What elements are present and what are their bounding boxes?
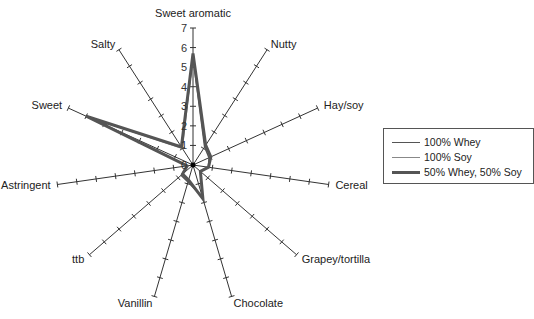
axis-line: [193, 165, 329, 184]
axis-label: Salty: [91, 38, 116, 50]
legend-label: 100% Soy: [424, 151, 472, 163]
axis-tick: [309, 179, 310, 185]
legend: 100% Whey 100% Soy 50% Whey, 50% Soy: [383, 128, 534, 184]
axis-tick: [254, 65, 259, 68]
axis-tick: [265, 48, 270, 51]
axis-tick: [328, 182, 329, 188]
axis-tick: [148, 98, 153, 101]
center-point: [191, 163, 196, 168]
axis-line: [57, 165, 193, 184]
radial-tick-label: 3: [181, 100, 187, 112]
axis-line: [193, 165, 297, 255]
axis-tick: [154, 168, 155, 174]
legend-label: 100% Whey: [424, 136, 481, 148]
axis-label: Chocolate: [234, 297, 284, 309]
axis-tick: [231, 168, 232, 174]
axis-label: Nutty: [271, 38, 297, 50]
axis-label: Vanillin: [118, 297, 153, 309]
axis-tick: [251, 170, 252, 176]
axis-label: Sweet: [32, 99, 63, 111]
legend-item-soy: 100% Soy: [392, 150, 472, 164]
legend-swatch-blend: [392, 171, 420, 174]
axis-tick: [212, 165, 213, 171]
axis-line: [89, 165, 193, 255]
axis-tick: [57, 182, 58, 188]
radial-tick-label: 5: [181, 61, 187, 73]
axis-tick: [96, 176, 97, 182]
axis-label: Hay/soy: [324, 99, 364, 111]
radial-tick-label: 0: [181, 159, 187, 171]
radial-tick-label: 1: [181, 139, 187, 151]
radar-axes: [57, 28, 329, 297]
axis-tick: [159, 114, 164, 117]
axis-tick: [169, 130, 174, 133]
axis-tick: [173, 165, 174, 171]
axis-tick: [76, 179, 77, 185]
radial-tick-label: 7: [181, 22, 187, 34]
axis-line: [154, 165, 193, 296]
axis-tick: [116, 48, 121, 51]
axis-tick: [138, 81, 143, 84]
legend-item-blend: 50% Whey, 50% Soy: [392, 165, 522, 179]
axis-tick: [270, 173, 271, 179]
axis-tick: [212, 130, 217, 133]
axis-label: Astringent: [1, 179, 51, 191]
legend-swatch-soy: [392, 157, 420, 158]
radial-tick-label: 4: [181, 81, 187, 93]
axis-tick: [243, 81, 248, 84]
axis-tick: [233, 98, 238, 101]
axis-label: Cereal: [335, 179, 367, 191]
radial-tick-label: 2: [181, 120, 187, 132]
axis-label: Grapey/tortilla: [302, 253, 371, 265]
legend-label: 50% Whey, 50% Soy: [424, 166, 522, 178]
axis-tick: [289, 176, 290, 182]
axis-tick: [115, 173, 116, 179]
axis-tick: [134, 170, 135, 176]
legend-swatch-whey: [392, 142, 420, 143]
radar-axis-labels: Sweet aromaticNuttyHay/soyCerealGrapey/t…: [1, 7, 371, 309]
axis-tick: [127, 65, 132, 68]
radial-tick-label: 6: [181, 42, 187, 54]
axis-tick: [222, 114, 227, 117]
legend-item-whey: 100% Whey: [392, 135, 481, 149]
axis-label: Sweet aromatic: [155, 7, 231, 19]
axis-label: ttb: [72, 253, 84, 265]
axis-line: [193, 165, 232, 296]
